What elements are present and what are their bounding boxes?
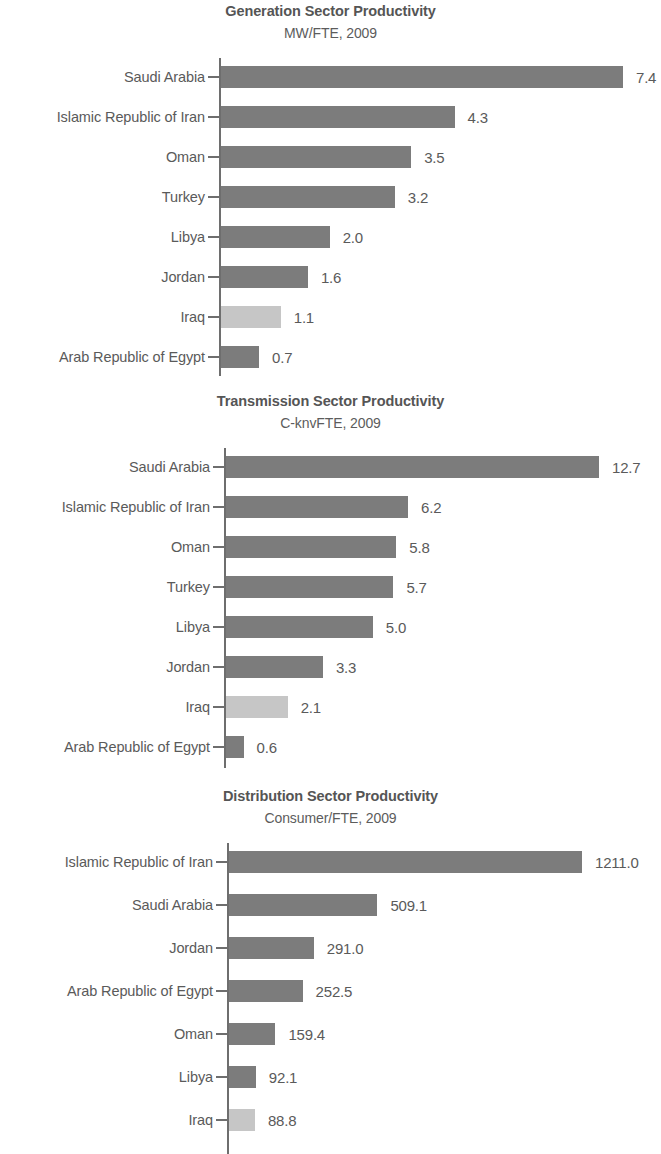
chart-subtitle: C-knvFTE, 2009 <box>0 414 661 433</box>
bar <box>229 851 582 873</box>
bar-row: Iraq2.1 <box>0 696 661 718</box>
bar-row: Iraq88.8 <box>0 1109 661 1131</box>
axis-tick <box>213 746 224 748</box>
axis-tick <box>216 990 227 992</box>
bar-value-label: 1.1 <box>294 309 314 326</box>
bar-row: Libya92.1 <box>0 1066 661 1088</box>
bar-row: Islamic Republic of Iran1211.0 <box>0 851 661 873</box>
bar-row: Libya5.0 <box>0 616 661 638</box>
bar-value-label: 6.2 <box>421 499 441 516</box>
bar-row: Oman3.5 <box>0 146 661 168</box>
bar-row: Iraq1.1 <box>0 306 661 328</box>
bar <box>226 736 244 758</box>
bar-value-label: 0.6 <box>257 739 277 756</box>
bar-row: Islamic Republic of Iran4.3 <box>0 106 661 128</box>
bar <box>221 66 623 88</box>
bar-value-label: 159.4 <box>288 1026 325 1043</box>
bar-row: Jordan291.0 <box>0 937 661 959</box>
bar-row: Saudi Arabia7.4 <box>0 66 661 88</box>
plot-area: Islamic Republic of Iran1211.0Saudi Arab… <box>0 843 661 1154</box>
category-label: Islamic Republic of Iran <box>57 109 205 125</box>
category-label: Jordan <box>166 659 210 675</box>
bar <box>226 536 396 558</box>
chart-title: Transmission Sector Productivity <box>0 392 661 411</box>
axis-tick <box>208 236 219 238</box>
bar-value-label: 1.6 <box>321 269 341 286</box>
axis-tick <box>208 116 219 118</box>
bar-value-label: 509.1 <box>390 897 427 914</box>
category-label: Iraq <box>180 309 205 325</box>
category-label: Jordan <box>161 269 205 285</box>
bar-row: Arab Republic of Egypt0.6 <box>0 736 661 758</box>
bar <box>226 656 323 678</box>
category-label: Saudi Arabia <box>129 459 210 475</box>
axis-tick <box>208 356 219 358</box>
category-label: Turkey <box>162 189 205 205</box>
bar-value-label: 252.5 <box>316 983 353 1000</box>
category-label: Oman <box>166 149 205 165</box>
bar-row: Jordan3.3 <box>0 656 661 678</box>
chart-title: Generation Sector Productivity <box>0 2 661 21</box>
bar-value-label: 3.5 <box>424 149 444 166</box>
category-label: Libya <box>179 1069 213 1085</box>
category-label: Oman <box>174 1026 213 1042</box>
axis-tick <box>216 1119 227 1121</box>
bar-row: Arab Republic of Egypt0.7 <box>0 346 661 368</box>
bar <box>229 980 303 1002</box>
bar <box>226 576 393 598</box>
bar-row: Arab Republic of Egypt252.5 <box>0 980 661 1002</box>
bar <box>221 146 411 168</box>
category-label: Iraq <box>188 1112 213 1128</box>
bar-row: Libya2.0 <box>0 226 661 248</box>
category-label: Libya <box>176 619 210 635</box>
bar-value-label: 2.0 <box>343 229 363 246</box>
bar-row: Saudi Arabia12.7 <box>0 456 661 478</box>
axis-tick <box>213 706 224 708</box>
axis-tick <box>208 156 219 158</box>
axis-tick <box>213 546 224 548</box>
bar-value-label: 4.3 <box>468 109 488 126</box>
bar-row: Turkey5.7 <box>0 576 661 598</box>
chart-title: Distribution Sector Productivity <box>0 787 661 806</box>
bar <box>221 306 281 328</box>
category-label: Islamic Republic of Iran <box>62 499 210 515</box>
bar-value-label: 291.0 <box>327 940 364 957</box>
bar-value-label: 5.7 <box>406 579 426 596</box>
bar-value-label: 1211.0 <box>595 854 639 871</box>
bar <box>221 106 455 128</box>
category-label: Oman <box>171 539 210 555</box>
category-label: Iraq <box>185 699 210 715</box>
bar-value-label: 92.1 <box>269 1069 297 1086</box>
plot-area: Saudi Arabia12.7Islamic Republic of Iran… <box>0 448 661 768</box>
category-label: Libya <box>171 229 205 245</box>
category-label: Arab Republic of Egypt <box>59 349 205 365</box>
bar <box>221 346 259 368</box>
bar <box>229 1023 275 1045</box>
bar-row: Turkey3.2 <box>0 186 661 208</box>
bar <box>229 894 377 916</box>
category-label: Saudi Arabia <box>124 69 205 85</box>
bar <box>226 456 599 478</box>
bar-row: Oman5.8 <box>0 536 661 558</box>
bar-row: Islamic Republic of Iran6.2 <box>0 496 661 518</box>
category-label: Arab Republic of Egypt <box>64 739 210 755</box>
axis-tick <box>208 196 219 198</box>
axis-tick <box>208 316 219 318</box>
chart-subtitle: MW/FTE, 2009 <box>0 24 661 43</box>
axis-tick <box>216 861 227 863</box>
axis-tick <box>208 76 219 78</box>
bar-value-label: 3.2 <box>408 189 428 206</box>
bar <box>221 266 308 288</box>
category-label: Islamic Republic of Iran <box>65 854 213 870</box>
plot-area: Saudi Arabia7.4Islamic Republic of Iran4… <box>0 58 661 376</box>
bar-value-label: 7.4 <box>636 69 656 86</box>
axis-tick <box>216 904 227 906</box>
axis-tick <box>216 947 227 949</box>
category-label: Turkey <box>167 579 210 595</box>
axis-tick <box>213 506 224 508</box>
bar <box>226 496 408 518</box>
axis-tick <box>213 626 224 628</box>
axis-tick <box>213 586 224 588</box>
bar-value-label: 3.3 <box>336 659 356 676</box>
bar <box>226 696 288 718</box>
